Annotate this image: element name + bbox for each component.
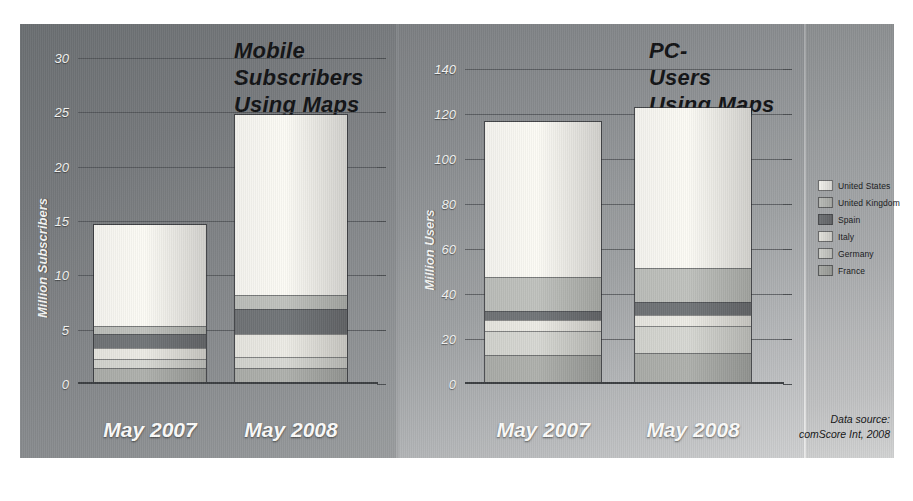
stacked-bar[interactable] xyxy=(484,121,602,382)
y-axis-title-pc: Million Users xyxy=(422,209,437,290)
y-axis-title-mobile: Million Subscribers xyxy=(35,198,50,318)
y-axis-tick-mark xyxy=(377,221,386,222)
bar-segment[interactable] xyxy=(485,122,601,278)
legend-swatch xyxy=(818,214,833,225)
plot-area-pc: 020406080100120140May 2007May 2008 xyxy=(465,58,784,384)
bar-group xyxy=(234,58,348,382)
legend-swatch xyxy=(818,265,833,276)
x-axis-category-label: May 2007 xyxy=(496,418,589,442)
legend-label: Germany xyxy=(838,249,874,259)
y-axis-tick-mark xyxy=(783,204,792,205)
stacked-bar[interactable] xyxy=(93,224,207,382)
y-axis-tick-label: 60 xyxy=(442,242,456,257)
bar-segment[interactable] xyxy=(235,334,347,358)
y-axis-tick-mark xyxy=(783,339,792,340)
legend: United StatesUnited KingdomSpainItalyGer… xyxy=(818,178,892,280)
bar-segment[interactable] xyxy=(94,225,206,326)
stacked-bar[interactable] xyxy=(634,107,752,382)
y-axis-tick-mark xyxy=(377,330,386,331)
y-axis-tick-mark xyxy=(377,112,386,113)
y-axis-tick-label: 5 xyxy=(62,322,69,337)
y-axis-tick-mark xyxy=(783,384,792,385)
bar-segment[interactable] xyxy=(635,353,751,382)
y-axis-tick-label: 15 xyxy=(55,214,69,229)
bar-group xyxy=(93,58,207,382)
data-source-line-2: comScore Int, 2008 xyxy=(799,427,890,442)
y-axis-tick-label: 10 xyxy=(55,268,69,283)
y-axis-tick-mark xyxy=(377,384,386,385)
x-axis-category-label: May 2007 xyxy=(103,418,196,442)
legend-item[interactable]: United States xyxy=(818,178,892,193)
bar-segment[interactable] xyxy=(235,368,347,382)
x-axis-category-label: May 2008 xyxy=(244,418,337,442)
data-source-note: Data source: comScore Int, 2008 xyxy=(799,412,890,442)
bar-segment[interactable] xyxy=(635,326,751,353)
legend-item[interactable]: Spain xyxy=(818,212,892,227)
y-axis-tick-mark xyxy=(377,167,386,168)
y-axis-tick-label: 120 xyxy=(434,107,456,122)
legend-label: Italy xyxy=(838,232,854,242)
bar-segment[interactable] xyxy=(94,359,206,368)
bar-segment[interactable] xyxy=(635,315,751,326)
legend-swatch xyxy=(818,248,833,259)
y-axis-tick-mark xyxy=(783,69,792,70)
bar-segment[interactable] xyxy=(485,331,601,355)
bar-segment[interactable] xyxy=(94,334,206,348)
bar-segment[interactable] xyxy=(94,368,206,382)
legend-swatch xyxy=(818,180,833,191)
bar-segment[interactable] xyxy=(635,268,751,301)
bar-segment[interactable] xyxy=(235,357,347,368)
y-axis-tick-mark xyxy=(783,159,792,160)
bar-group xyxy=(634,58,752,382)
legend-label: Spain xyxy=(838,215,860,225)
y-axis-tick-mark xyxy=(783,294,792,295)
bar-segment[interactable] xyxy=(635,302,751,315)
y-axis-tick-mark xyxy=(377,275,386,276)
legend-item[interactable]: Italy xyxy=(818,229,892,244)
bar-segment[interactable] xyxy=(235,115,347,295)
y-axis-tick-mark xyxy=(783,114,792,115)
chart-panel-mobile: Mobile Subscribers Using Maps Million Su… xyxy=(20,24,396,458)
legend-swatch xyxy=(818,197,833,208)
y-axis-tick-mark xyxy=(783,249,792,250)
bar-group xyxy=(484,58,602,382)
y-axis-tick-label: 100 xyxy=(434,152,456,167)
bar-segment[interactable] xyxy=(235,295,347,309)
bar-segment[interactable] xyxy=(94,326,206,334)
y-axis-tick-label: 20 xyxy=(55,159,69,174)
legend-label: France xyxy=(838,266,865,276)
y-axis-tick-label: 0 xyxy=(449,377,456,392)
chart-panel-pc: PC- Users Using Maps Million Users 02040… xyxy=(399,24,804,458)
x-axis-line xyxy=(465,382,784,384)
bar-segment[interactable] xyxy=(485,355,601,382)
bar-segment[interactable] xyxy=(94,348,206,360)
legend-swatch xyxy=(818,231,833,242)
x-axis-line xyxy=(78,382,378,384)
stacked-bar[interactable] xyxy=(234,114,348,382)
y-axis-tick-label: 140 xyxy=(434,62,456,77)
y-axis-tick-mark xyxy=(377,58,386,59)
y-axis-tick-label: 30 xyxy=(55,51,69,66)
y-axis-tick-label: 40 xyxy=(442,287,456,302)
legend-item[interactable]: United Kingdom xyxy=(818,195,892,210)
bar-segment[interactable] xyxy=(485,311,601,320)
data-source-line-1: Data source: xyxy=(799,412,890,427)
bar-segment[interactable] xyxy=(485,277,601,310)
figure-canvas: Mobile Subscribers Using Maps Million Su… xyxy=(20,24,894,458)
legend-item[interactable]: Germany xyxy=(818,246,892,261)
plot-area-mobile: 051015202530May 2007May 2008 xyxy=(78,58,378,384)
legend-label: United States xyxy=(838,181,890,191)
y-axis-tick-label: 25 xyxy=(55,105,69,120)
y-axis-tick-label: 20 xyxy=(442,332,456,347)
y-axis-tick-label: 80 xyxy=(442,197,456,212)
legend-panel: United StatesUnited KingdomSpainItalyGer… xyxy=(806,24,894,458)
bar-segment[interactable] xyxy=(635,108,751,268)
bar-segment[interactable] xyxy=(485,320,601,331)
legend-label: United Kingdom xyxy=(838,198,900,208)
y-axis-tick-label: 0 xyxy=(62,377,69,392)
bar-segment[interactable] xyxy=(235,309,347,334)
x-axis-category-label: May 2008 xyxy=(646,418,739,442)
legend-item[interactable]: France xyxy=(818,263,892,278)
